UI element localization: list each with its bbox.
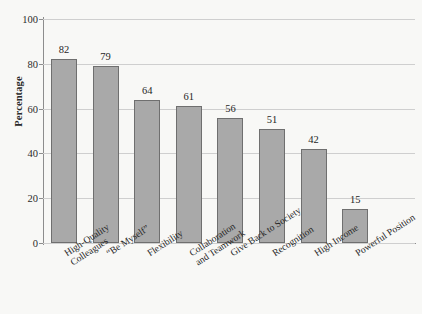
x-category-label-line: Flexibility bbox=[145, 249, 151, 259]
y-tick-mark-40 bbox=[39, 153, 43, 154]
x-category-label: High-QualityColleagues bbox=[62, 249, 74, 268]
y-tick-mark-0 bbox=[39, 243, 43, 244]
x-category-label-line: Recognition bbox=[270, 249, 276, 259]
x-category-label-line: “Be Myself” bbox=[104, 249, 110, 259]
bar-value-label: 42 bbox=[294, 134, 334, 145]
y-tick-label-60: 60 bbox=[4, 103, 38, 114]
plot-area: 8279646156514215 bbox=[43, 19, 415, 243]
x-category-label-line: High-Quality bbox=[62, 249, 68, 259]
bar bbox=[93, 66, 119, 243]
x-category-label: High Income bbox=[312, 249, 318, 259]
x-category-label-line: Collaboration bbox=[187, 249, 193, 259]
x-category-label: Powerful Position bbox=[353, 249, 359, 259]
bar-value-label: 56 bbox=[210, 103, 250, 114]
x-category-label-line: Give Back to Society bbox=[228, 249, 234, 259]
x-category-label-line: Powerful Position bbox=[353, 249, 359, 259]
y-tick-mark-100 bbox=[39, 19, 43, 20]
bar-chart-figure: Percentage 020406080100 8279646156514215… bbox=[0, 0, 422, 314]
bar bbox=[51, 59, 77, 243]
x-axis-category-labels: High-QualityColleagues“Be Myself”Flexibi… bbox=[43, 245, 422, 314]
y-tick-mark-80 bbox=[39, 64, 43, 65]
x-category-label-line: and Teamwork bbox=[193, 259, 199, 269]
y-tick-mark-20 bbox=[39, 198, 43, 199]
y-tick-mark-60 bbox=[39, 109, 43, 110]
x-category-label-line: Colleagues bbox=[68, 259, 74, 269]
bar-value-label: 79 bbox=[86, 51, 126, 62]
gridline-80 bbox=[43, 64, 415, 65]
bar-value-label: 61 bbox=[169, 91, 209, 102]
y-axis-tick-labels: 020406080100 bbox=[0, 19, 38, 243]
x-category-label: Collaborationand Teamwork bbox=[187, 249, 199, 268]
bar bbox=[176, 106, 202, 243]
bar-value-label: 64 bbox=[127, 85, 167, 96]
x-category-label: Recognition bbox=[270, 249, 276, 259]
x-category-label: Give Back to Society bbox=[228, 249, 234, 259]
y-tick-label-80: 80 bbox=[4, 58, 38, 69]
bar bbox=[134, 100, 160, 243]
y-tick-label-40: 40 bbox=[4, 148, 38, 159]
y-tick-label-100: 100 bbox=[4, 14, 38, 25]
y-tick-label-0: 0 bbox=[4, 238, 38, 249]
x-category-label: Flexibility bbox=[145, 249, 151, 259]
bar-value-label: 15 bbox=[335, 194, 375, 205]
bar-value-label: 51 bbox=[252, 114, 292, 125]
y-tick-label-20: 20 bbox=[4, 193, 38, 204]
x-category-label: “Be Myself” bbox=[104, 249, 110, 259]
bar-value-label: 82 bbox=[44, 44, 84, 55]
gridline-100 bbox=[43, 19, 415, 20]
x-category-label-line: High Income bbox=[312, 249, 318, 259]
